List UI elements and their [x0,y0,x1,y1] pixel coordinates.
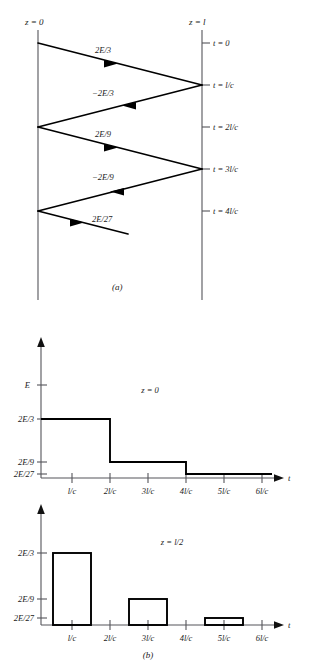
lower-ylabel-1: 2E/9 [18,594,35,604]
lower-xlabel-0: l/c [68,633,77,643]
ray-label-4: 2E/27 [92,214,113,224]
upper-ylabel-1: 2E/3 [18,414,34,424]
upper-ylabel-3: 2E/27 [14,469,35,479]
upper-xlabel-5: 6l/c [256,486,269,496]
upper-xlabel-1: 2l/c [104,486,117,496]
lower-ylabel-0: 2E/3 [18,548,34,558]
upper-xlabel-2: 3l/c [141,486,155,496]
chart-z-equals-0: t E 2E/3 2E/9 2E/27 l/c 2l/c 3l/c 4l/c 5… [14,337,291,496]
ray-1 [38,43,202,85]
lower-xlabel-3: 4l/c [180,633,193,643]
upper-ylabel-2: 2E/9 [18,457,35,467]
caption-b: (b) [143,650,154,660]
lower-xlabel-5: 6l/c [256,633,269,643]
lower-x-axis-title: t [288,620,291,630]
ray-2 [38,85,202,127]
lower-ylabel-2: 2E/27 [14,613,35,623]
ray-3 [38,127,202,169]
upper-x-axis-title: t [288,473,291,483]
upper-xlabel-0: l/c [68,486,77,496]
upper-x-axis-arrowhead [274,474,284,482]
ray-4-arrowhead [110,188,124,196]
caption-a: (a) [112,282,123,292]
upper-xlabel-3: 4l/c [180,486,193,496]
lower-xlabel-4: 5l/c [218,633,231,643]
ray-label-2: 2E/9 [95,129,112,139]
figure-svg: z = 0 z = l t = 0 t = l/c t = 2l/c t = 3… [0,0,311,660]
upper-ylabel-0: E [24,380,31,390]
lower-y-axis-arrowhead [37,504,45,514]
ray-label-1: −2E/3 [92,88,114,98]
time-label-3: t = 3l/c [213,164,238,174]
bar-0 [53,553,91,625]
upper-y-axis-arrowhead [37,337,45,347]
upper-xlabel-4: 5l/c [218,486,231,496]
figure-container: z = 0 z = l t = 0 t = l/c t = 2l/c t = 3… [0,0,311,660]
ray-label-3: −2E/9 [92,172,115,182]
lower-x-axis-arrowhead [274,621,284,629]
time-label-0: t = 0 [213,38,230,48]
time-label-2: t = 2l/c [213,122,238,132]
chart-z-equals-half-l: t 2E/3 2E/9 2E/27 l/c 2l/c 3l/c 4l/c 5l/… [14,504,291,660]
time-label-4: t = 4l/c [213,206,238,216]
label-z-equals-0: z = 0 [24,17,44,27]
lower-xlabel-2: 3l/c [141,633,155,643]
ray-label-0: 2E/3 [95,45,111,55]
panel-a: z = 0 z = l t = 0 t = l/c t = 2l/c t = 3… [24,17,238,300]
upper-annotation: z = 0 [140,385,159,395]
lower-xlabel-1: 2l/c [104,633,117,643]
label-z-equals-l: z = l [188,17,206,27]
upper-step-trace [41,419,272,474]
time-label-1: t = l/c [213,80,234,90]
lower-annotation: z = l/2 [160,537,184,547]
